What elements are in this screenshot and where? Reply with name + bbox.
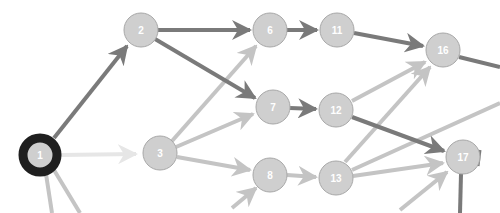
node-12[interactable]: 12 [319, 93, 353, 127]
edge-8-13[interactable] [287, 175, 316, 177]
edge-7-12[interactable] [290, 108, 316, 109]
node-7-label: 7 [270, 102, 276, 113]
edge-1-offscreen-a[interactable] [46, 174, 52, 213]
node-2-label: 2 [138, 25, 144, 36]
graph-canvas: 1 2 3 6 7 8 11 12 [0, 0, 500, 213]
node-1[interactable]: 1 [23, 138, 57, 172]
node-8[interactable]: 8 [253, 158, 287, 192]
node-13-label: 13 [330, 173, 342, 184]
node-12-label: 12 [330, 105, 342, 116]
node-16-label: 16 [437, 45, 449, 56]
edge-offscreen-8[interactable] [232, 188, 256, 208]
edge-1-2[interactable] [54, 46, 127, 138]
node-13[interactable]: 13 [319, 161, 353, 195]
edge-3-8[interactable] [177, 157, 250, 170]
node-17-label: 17 [457, 152, 469, 163]
edge-1-3[interactable] [60, 154, 136, 155]
node-11-label: 11 [332, 25, 343, 36]
node-1-label: 1 [37, 150, 43, 161]
edge-3-7[interactable] [176, 114, 253, 147]
node-3[interactable]: 3 [143, 136, 177, 170]
edge-16-offscreen-right[interactable] [459, 57, 500, 67]
edge-17-offscreen-bottom[interactable] [460, 174, 461, 213]
edge-12-16[interactable] [352, 62, 425, 101]
edge-3-6[interactable] [172, 46, 256, 141]
node-6[interactable]: 6 [253, 13, 287, 47]
node-7[interactable]: 7 [256, 90, 290, 124]
node-11[interactable]: 11 [320, 13, 354, 47]
node-6-label: 6 [267, 25, 273, 36]
node-8-label: 8 [267, 170, 273, 181]
edge-11-16[interactable] [354, 33, 423, 46]
node-3-label: 3 [157, 148, 163, 159]
edge-2-7[interactable] [155, 39, 255, 98]
edge-1-offscreen-b[interactable] [54, 170, 80, 213]
edge-offscreen-17[interactable] [400, 172, 447, 210]
node-17[interactable]: 17 [446, 140, 480, 174]
node-16[interactable]: 16 [426, 33, 460, 67]
node-2[interactable]: 2 [124, 13, 158, 47]
